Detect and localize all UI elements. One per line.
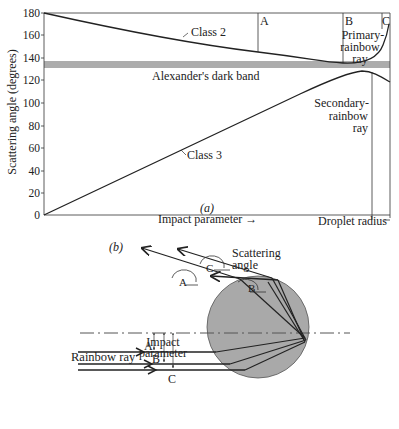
y-tick-40: 40: [29, 165, 41, 177]
diagram-panel-b: (b): [71, 240, 350, 386]
svg-text:angle: angle: [232, 258, 258, 272]
secondary-rainbow-ray-label: Secondary- rainbow ray: [314, 96, 369, 135]
y-axis-title: Scattering angle (degrees): [5, 49, 19, 174]
class-3-curve: [44, 71, 390, 215]
class-2-label: Class 2: [191, 25, 226, 39]
svg-text:Secondary-: Secondary-: [314, 96, 369, 110]
alexanders-dark-band: [44, 61, 390, 68]
marker-b-label: B: [345, 14, 353, 28]
svg-text:ray: ray: [352, 52, 367, 66]
y-tick-20: 20: [29, 187, 41, 199]
class-2-leader: [183, 33, 188, 37]
primary-rainbow-ray-label: Primary- rainbow ray: [340, 28, 384, 66]
alexanders-dark-band-label: Alexander's dark band: [152, 69, 259, 83]
angle-a-label: A: [179, 276, 187, 288]
angle-b-label: B: [248, 282, 255, 294]
y-axis-ticks: [41, 13, 44, 193]
y-tick-180: 180: [23, 7, 41, 19]
y-tick-100: 100: [23, 97, 41, 109]
chart-panel-a: 180 160 140 120 100 80 60 40 20 0 Scatte…: [5, 7, 390, 228]
y-tick-0: 0: [34, 209, 40, 221]
y-tick-160: 160: [23, 29, 41, 41]
y-tick-60: 60: [29, 142, 41, 154]
y-axis-tick-labels: 180 160 140 120 100 80 60 40 20 0: [23, 7, 41, 221]
rainbow-ray-label: Rainbow ray: [71, 350, 136, 364]
angle-c-label: C: [206, 262, 213, 274]
x-axis-end-label: Droplet radius: [318, 214, 387, 228]
y-tick-80: 80: [29, 120, 41, 132]
class-3-label: Class 3: [187, 148, 222, 162]
marker-c-label: C: [382, 14, 390, 28]
y-tick-140: 140: [23, 52, 41, 64]
panel-b-label: (b): [109, 240, 123, 254]
x-axis-title: Impact parameter →: [158, 212, 257, 226]
ray-a-label: A: [144, 339, 153, 353]
marker-a-label: A: [260, 14, 269, 28]
svg-text:ray: ray: [353, 121, 368, 135]
class-3-leader: [181, 150, 186, 155]
ray-c-label: C: [168, 372, 176, 386]
scattering-angle-label: Scattering angle: [232, 246, 281, 272]
y-tick-120: 120: [23, 74, 41, 86]
ray-b-label: B: [152, 352, 160, 366]
figure: 180 160 140 120 100 80 60 40 20 0 Scatte…: [0, 0, 399, 429]
